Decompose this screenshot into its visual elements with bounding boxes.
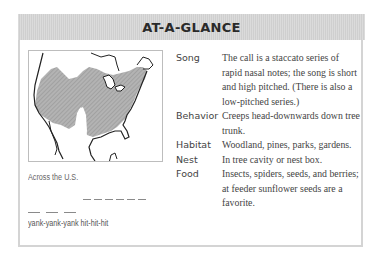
fact-label: Food <box>176 167 222 211</box>
fact-label: Behavior <box>176 109 222 138</box>
card-title: AT-A-GLANCE <box>142 20 240 35</box>
song-dash-high <box>105 199 113 200</box>
song-dash-high <box>127 199 135 200</box>
song-pattern-text: yank-yank-yank hit-hit-hit <box>28 218 108 228</box>
range-map-icon <box>29 51 163 162</box>
fact-value: Woodland, pines, parks, gardens. <box>222 138 361 153</box>
song-dash-low <box>64 212 76 213</box>
fact-value: The call is a staccato series of rapid n… <box>222 51 361 109</box>
fact-nest: Nest In tree cavity or nest box. <box>176 153 361 168</box>
fact-value: In tree cavity or nest box. <box>222 153 361 168</box>
song-dash-high <box>138 199 146 200</box>
card-header: AT-A-GLANCE <box>18 14 365 40</box>
song-dash-low <box>28 212 40 213</box>
fact-food: Food Insects, spiders, seeds, and berrie… <box>176 167 361 211</box>
song-dash-low <box>46 212 58 213</box>
song-dash-high <box>83 199 91 200</box>
fact-habitat: Habitat Woodland, pines, parks, gardens. <box>176 138 361 153</box>
fact-behavior: Behavior Creeps head-downwards down tree… <box>176 109 361 138</box>
song-dash-high <box>116 199 124 200</box>
fact-song: Song The call is a staccato series of ra… <box>176 51 361 109</box>
fact-label: Song <box>176 51 222 109</box>
range-map <box>28 50 163 162</box>
fact-label: Nest <box>176 153 222 168</box>
fact-label: Habitat <box>176 138 222 153</box>
fact-value: Creeps head-downwards down tree trunk. <box>222 109 361 138</box>
song-graph <box>28 198 178 220</box>
range-caption: Across the U.S. <box>28 172 78 182</box>
song-dash-high <box>94 199 102 200</box>
fact-value: Insects, spiders, seeds, and berries; at… <box>222 167 361 211</box>
facts-list: Song The call is a staccato series of ra… <box>176 51 361 211</box>
